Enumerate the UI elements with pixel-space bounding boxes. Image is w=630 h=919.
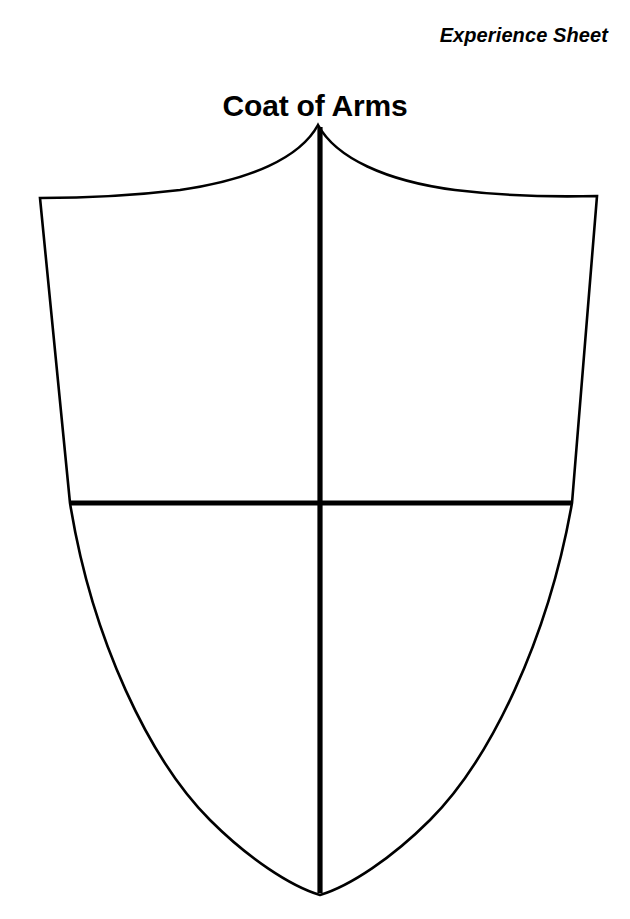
worksheet-page: Experience Sheet Coat of Arms bbox=[0, 0, 630, 919]
shield-diagram bbox=[0, 0, 630, 919]
quarter-top-right[interactable] bbox=[325, 205, 565, 498]
shield-figure bbox=[0, 0, 630, 919]
quarter-bottom-left[interactable] bbox=[100, 508, 315, 838]
quarter-top-left[interactable] bbox=[75, 205, 315, 498]
quarter-bottom-right[interactable] bbox=[325, 508, 540, 838]
